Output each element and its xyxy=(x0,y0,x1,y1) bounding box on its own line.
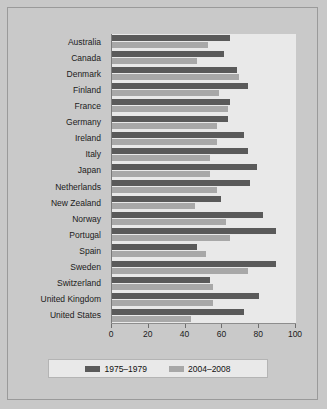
bar-new xyxy=(112,219,226,225)
bar-old xyxy=(112,148,248,154)
bar-group xyxy=(111,211,296,227)
y-axis-label-germany: Germany xyxy=(66,117,101,127)
bar-old xyxy=(112,293,259,299)
y-axis-label-new-zealand: New Zealand xyxy=(51,198,101,208)
x-tick-label-80: 80 xyxy=(253,329,262,339)
plot-area xyxy=(111,34,296,324)
legend-item-0: 1975–1979 xyxy=(85,364,147,374)
bar-new xyxy=(112,300,213,306)
chart-legend: 1975–1979 2004–2008 xyxy=(48,359,268,378)
bar-group xyxy=(111,115,296,131)
bar-old xyxy=(112,83,248,89)
y-axis-label-norway: Norway xyxy=(72,214,101,224)
bar-new xyxy=(112,235,230,241)
x-tick-80 xyxy=(258,324,259,328)
bar-group xyxy=(111,260,296,276)
bar-new xyxy=(112,187,217,193)
bar-group xyxy=(111,195,296,211)
legend-label-1975-1979: 1975–1979 xyxy=(104,364,147,374)
bar-new xyxy=(112,74,239,80)
bar-new xyxy=(112,268,248,274)
y-axis-label-ireland: Ireland xyxy=(75,133,101,143)
bar-new xyxy=(112,90,219,96)
bar-group xyxy=(111,131,296,147)
y-axis-label-portugal: Portugal xyxy=(69,230,101,240)
bar-old xyxy=(112,261,276,267)
y-axis-category-labels: AustraliaCanadaDenmarkFinlandFranceGerma… xyxy=(8,34,108,324)
bar-old xyxy=(112,244,197,250)
y-axis-line xyxy=(111,34,112,324)
bar-old xyxy=(112,277,210,283)
legend-item-1: 2004–2008 xyxy=(169,364,231,374)
x-tick-label-0: 0 xyxy=(109,329,114,339)
y-axis-label-spain: Spain xyxy=(79,246,101,256)
x-tick-100 xyxy=(295,324,296,328)
legend-label-2004-2008: 2004–2008 xyxy=(188,364,231,374)
y-axis-label-sweden: Sweden xyxy=(70,262,101,272)
x-tick-label-40: 40 xyxy=(180,329,189,339)
y-axis-label-united-kingdom: United Kingdom xyxy=(41,294,101,304)
bar-group xyxy=(111,292,296,308)
bar-group xyxy=(111,147,296,163)
y-axis-label-switzerland: Switzerland xyxy=(57,278,101,288)
bar-group xyxy=(111,276,296,292)
y-axis-label-japan: Japan xyxy=(78,165,101,175)
bar-old xyxy=(112,67,237,73)
bar-new xyxy=(112,316,191,322)
bar-old xyxy=(112,212,263,218)
bar-old xyxy=(112,309,244,315)
y-axis-label-united-states: United States xyxy=(50,310,101,320)
bar-group xyxy=(111,243,296,259)
bar-group xyxy=(111,82,296,98)
x-tick-label-60: 60 xyxy=(217,329,226,339)
bar-old xyxy=(112,99,230,105)
x-tick-20 xyxy=(148,324,149,328)
bar-group xyxy=(111,308,296,324)
x-axis-ticks: 020406080100 xyxy=(111,324,296,346)
bar-group xyxy=(111,179,296,195)
x-tick-label-100: 100 xyxy=(288,329,302,339)
bar-old xyxy=(112,35,230,41)
bar-group xyxy=(111,98,296,114)
bar-old xyxy=(112,132,244,138)
chart-figure: AustraliaCanadaDenmarkFinlandFranceGerma… xyxy=(7,7,318,400)
bar-group xyxy=(111,34,296,50)
bar-new xyxy=(112,284,213,290)
x-tick-40 xyxy=(185,324,186,328)
bar-new xyxy=(112,42,208,48)
bar-new xyxy=(112,123,217,129)
bar-old xyxy=(112,51,224,57)
bar-old xyxy=(112,196,221,202)
bar-old xyxy=(112,180,250,186)
bar-new xyxy=(112,106,228,112)
bar-old xyxy=(112,164,257,170)
bar-new xyxy=(112,139,217,145)
legend-swatch-1975-1979 xyxy=(85,366,100,372)
bar-new xyxy=(112,251,206,257)
x-tick-label-20: 20 xyxy=(143,329,152,339)
bar-new xyxy=(112,155,210,161)
bar-old xyxy=(112,228,276,234)
legend-swatch-2004-2008 xyxy=(169,366,184,372)
bar-new xyxy=(112,58,197,64)
x-tick-60 xyxy=(221,324,222,328)
y-axis-label-denmark: Denmark xyxy=(67,69,101,79)
bar-rows xyxy=(111,34,296,324)
y-axis-label-netherlands: Netherlands xyxy=(55,182,101,192)
y-axis-label-france: France xyxy=(75,101,101,111)
x-tick-0 xyxy=(111,324,112,328)
y-axis-label-italy: Italy xyxy=(85,149,101,159)
bar-old xyxy=(112,116,228,122)
bar-group xyxy=(111,66,296,82)
y-axis-label-finland: Finland xyxy=(73,85,101,95)
bar-group xyxy=(111,227,296,243)
bar-group xyxy=(111,50,296,66)
bar-group xyxy=(111,163,296,179)
bar-new xyxy=(112,171,210,177)
bar-new xyxy=(112,203,195,209)
y-axis-label-canada: Canada xyxy=(71,53,101,63)
y-axis-label-australia: Australia xyxy=(68,37,101,47)
